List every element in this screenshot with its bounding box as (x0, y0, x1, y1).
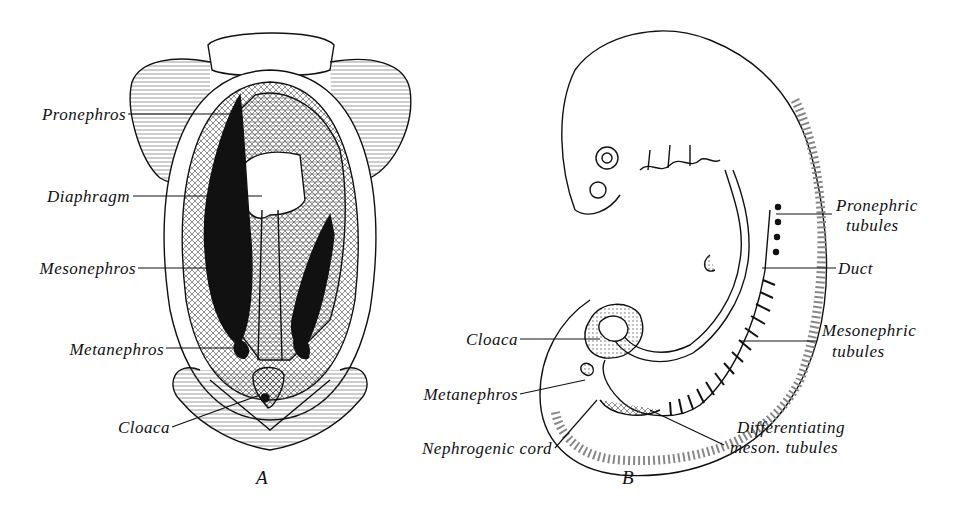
label-differentiating-2: meson. tubules (730, 438, 838, 457)
label-differentiating-1: Differentiating (737, 418, 845, 437)
label-mesonephric-tubules-1: Mesonephric (822, 321, 916, 340)
label-pronephric-tubules-2: tubules (846, 216, 899, 235)
label-metanephros-a: Metanephros (44, 340, 164, 359)
caption-a: A (256, 467, 268, 489)
label-cloaca-a: Cloaca (100, 418, 170, 437)
label-cloaca-b: Cloaca (440, 330, 518, 349)
caption-b: B (622, 467, 634, 489)
label-nephrogenic-cord: Nephrogenic cord (390, 439, 552, 458)
figure-b-leaders (520, 214, 836, 448)
label-pronephros-a: Pronephros (26, 105, 126, 124)
label-diaphragm: Diaphragm (26, 187, 130, 206)
label-duct: Duct (838, 259, 873, 278)
label-pronephric-tubules-1: Pronephric (836, 196, 918, 215)
figure-a-embryo (130, 33, 411, 450)
label-metanephros-b: Metanephros (390, 385, 518, 404)
figure-b-embryo (540, 31, 826, 476)
label-mesonephros: Mesonephros (18, 259, 136, 278)
label-mesonephric-tubules-2: tubules (832, 342, 885, 361)
